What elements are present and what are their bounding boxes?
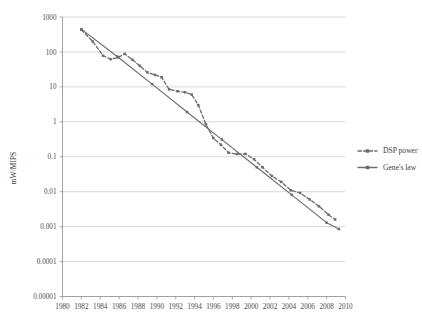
series-line-1	[81, 29, 339, 229]
x-tick-label: 2006	[301, 303, 316, 311]
data-point-marker	[154, 74, 157, 77]
x-tick-label: 2008	[319, 303, 334, 311]
data-point-marker	[318, 205, 321, 208]
data-point-marker	[334, 218, 337, 221]
data-point-marker	[168, 88, 171, 91]
legend-label-0: DSP power	[383, 146, 418, 155]
data-point-marker	[176, 90, 179, 93]
y-tick-label: 0.0001	[37, 258, 57, 266]
data-point-marker	[290, 194, 293, 197]
y-axis-title: mW/MIPS	[9, 152, 18, 185]
data-point-marker	[221, 138, 224, 141]
x-tick-label: 2004	[282, 303, 297, 311]
chart-container: 10001001010.10.010.0010.00010.00001 1980…	[0, 0, 422, 332]
x-tick-label: 1996	[206, 303, 221, 311]
y-tick-label: 1000	[42, 14, 57, 22]
x-tick-label: 1984	[93, 303, 108, 311]
x-tick-label: 2010	[338, 303, 353, 311]
data-point-marker	[131, 58, 134, 61]
data-point-marker	[80, 28, 83, 31]
data-point-marker	[212, 137, 215, 140]
x-tick-label: 1988	[131, 303, 146, 311]
data-point-marker	[327, 213, 330, 216]
y-tick-label: 0.01	[44, 188, 57, 196]
x-tick-label: 2000	[244, 303, 259, 311]
x-tick-label: 1998	[225, 303, 240, 311]
data-point-marker	[220, 144, 223, 147]
x-tick-label: 1980	[55, 303, 70, 311]
gridlines-group	[63, 17, 346, 262]
y-tick-label: 1	[53, 118, 57, 126]
y-tick-label: 0.001	[40, 223, 57, 231]
data-point-marker	[190, 93, 193, 96]
data-point-marker	[338, 228, 341, 231]
data-point-marker	[139, 65, 142, 68]
y-tick-label: 10	[49, 83, 57, 91]
data-series-group	[80, 28, 340, 230]
x-tick-label: 1986	[112, 303, 127, 311]
data-point-marker	[271, 175, 274, 178]
data-point-marker	[116, 55, 119, 58]
data-point-marker	[325, 221, 328, 224]
data-point-marker	[184, 91, 187, 94]
data-point-marker	[102, 54, 105, 57]
legend-label-1: Gene's law	[383, 163, 417, 172]
y-tick-label: 0.00001	[33, 293, 57, 301]
data-point-marker	[205, 123, 208, 126]
data-point-marker	[253, 158, 256, 161]
data-point-marker	[299, 192, 302, 195]
data-point-marker	[124, 53, 127, 56]
data-point-marker	[236, 153, 239, 156]
y-tick-label: 100	[46, 49, 57, 57]
x-tick-label: 1992	[169, 303, 184, 311]
data-point-marker	[91, 40, 94, 43]
data-point-marker	[256, 166, 259, 169]
data-point-marker	[280, 181, 283, 184]
y-tick-label: 0.1	[48, 153, 57, 161]
x-tick-label: 1982	[74, 303, 89, 311]
data-point-marker	[197, 104, 200, 107]
log-line-chart: 10001001010.10.010.0010.00010.00001 1980…	[0, 0, 422, 332]
y-axis-tick-labels: 10001001010.10.010.0010.00010.00001	[33, 14, 57, 302]
x-axis-tick-labels: 1980198219841986198819901992199419961998…	[55, 303, 353, 311]
chart-legend: DSP powerGene's law	[358, 146, 418, 172]
data-point-marker	[261, 166, 264, 169]
data-point-marker	[244, 153, 247, 156]
x-tick-label: 1990	[150, 303, 165, 311]
data-point-marker	[227, 152, 230, 155]
data-point-marker	[146, 71, 149, 74]
x-tick-label: 2002	[263, 303, 278, 311]
data-point-marker	[109, 58, 112, 61]
legend-swatch-marker-1	[366, 166, 369, 169]
data-point-marker	[290, 189, 293, 192]
data-point-marker	[151, 83, 154, 86]
data-point-marker	[160, 76, 163, 79]
data-point-marker	[186, 111, 189, 114]
x-tick-label: 1994	[187, 303, 202, 311]
tick-marks-group	[60, 17, 346, 300]
legend-swatch-marker-0	[366, 149, 369, 152]
data-point-marker	[308, 198, 311, 201]
